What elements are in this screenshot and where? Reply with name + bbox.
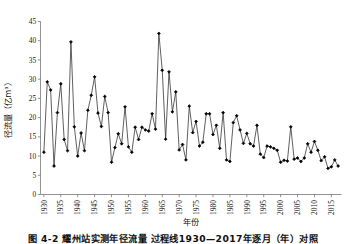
x-tick-label: 1935 (56, 200, 65, 215)
data-point-marker (134, 126, 137, 129)
data-point-marker (53, 165, 56, 168)
data-point-marker (215, 124, 218, 127)
data-point-marker (117, 132, 120, 135)
data-point-marker (188, 105, 191, 108)
data-point-marker (222, 111, 225, 114)
runoff-polyline (44, 33, 338, 168)
data-point-marker (69, 40, 72, 43)
data-point-marker (283, 159, 286, 162)
y-axis-title: 径流量（亿m³） (3, 78, 13, 137)
data-point-marker (100, 125, 103, 128)
data-point-marker (161, 69, 164, 72)
data-point-marker (66, 149, 69, 152)
x-tick-label: 1955 (124, 200, 133, 215)
x-tick-label: 1975 (192, 200, 201, 215)
data-point-marker (333, 158, 336, 161)
data-point-marker (279, 161, 282, 164)
data-point-marker (171, 110, 174, 113)
data-point-marker (239, 128, 242, 131)
data-point-marker (49, 88, 52, 91)
x-tick-label: 2010 (310, 200, 319, 215)
runoff-series (42, 32, 339, 170)
data-point-marker (151, 112, 154, 115)
data-point-marker (174, 90, 177, 93)
y-tick-label: 45 (29, 17, 37, 26)
y-tick-label: 35 (29, 56, 37, 65)
data-point-marker (289, 125, 292, 128)
data-point-marker (313, 140, 316, 143)
y-tick-label: 40 (29, 36, 37, 45)
data-point-marker (235, 114, 238, 117)
data-point-marker (107, 111, 110, 114)
data-point-marker (276, 149, 279, 152)
y-tick-label: 0 (32, 190, 36, 199)
x-tick-label: 1980 (209, 200, 218, 215)
data-point-marker (124, 105, 127, 108)
data-point-marker (245, 132, 248, 135)
y-tick-label: 30 (29, 75, 37, 84)
data-point-marker (76, 155, 79, 158)
data-point-marker (73, 125, 76, 128)
data-point-marker (147, 130, 150, 133)
data-point-marker (212, 133, 215, 136)
data-point-marker (293, 158, 296, 161)
data-point-marker (46, 80, 49, 83)
x-tick-label: 1930 (40, 200, 49, 215)
x-tick-label: 1960 (141, 200, 150, 215)
data-point-marker (195, 120, 198, 123)
data-point-marker (306, 142, 309, 145)
data-point-marker (218, 147, 221, 150)
runoff-time-series-figure: 0510152025303540451930193519401945195019… (0, 0, 346, 244)
data-point-marker (269, 145, 272, 148)
data-point-marker (120, 142, 123, 145)
data-point-marker (242, 142, 245, 145)
figure-caption: 图 4-2 耀州站实测年径流量 过程线1930—2017年逐月（年）对照 (0, 231, 346, 244)
data-point-marker (191, 131, 194, 134)
data-point-marker (56, 111, 59, 114)
data-point-marker (205, 112, 208, 115)
x-tick-label: 1995 (259, 200, 268, 215)
data-point-marker (255, 124, 258, 127)
data-point-marker (80, 132, 83, 135)
data-point-marker (110, 161, 113, 164)
data-point-marker (164, 138, 167, 141)
data-point-marker (232, 121, 235, 124)
data-point-marker (310, 151, 313, 154)
x-axis-title: 年份 (183, 217, 199, 227)
data-point-marker (63, 138, 66, 141)
data-point-marker (228, 160, 231, 163)
x-tick-label: 2015 (327, 200, 336, 215)
data-point-marker (157, 32, 160, 35)
data-point-marker (327, 167, 330, 170)
data-point-marker (330, 165, 333, 168)
data-point-marker (316, 149, 319, 152)
x-tick-label: 1970 (175, 200, 184, 215)
data-point-marker (90, 94, 93, 97)
data-point-marker (208, 112, 211, 115)
y-tick-label: 25 (29, 94, 37, 103)
y-tick-label: 10 (29, 152, 37, 161)
x-tick-label: 1965 (158, 200, 167, 215)
data-point-marker (168, 70, 171, 73)
data-point-marker (225, 158, 228, 161)
y-tick-label: 15 (29, 132, 37, 141)
data-point-marker (113, 146, 116, 149)
data-point-marker (86, 109, 89, 112)
data-point-marker (103, 95, 106, 98)
x-tick-label: 1990 (243, 200, 252, 215)
data-point-marker (93, 75, 96, 78)
x-tick-label: 1950 (107, 200, 116, 215)
data-point-marker (266, 145, 269, 148)
data-point-marker (59, 82, 62, 85)
x-tick-label: 2005 (293, 200, 302, 215)
data-point-marker (184, 158, 187, 161)
x-tick-label: 1945 (90, 200, 99, 215)
data-point-marker (286, 160, 289, 163)
x-tick-label: 2000 (276, 200, 285, 215)
x-tick-label: 1940 (73, 200, 82, 215)
data-point-marker (154, 128, 157, 131)
x-tick-label: 1985 (226, 200, 235, 215)
data-point-marker (337, 165, 340, 168)
runoff-line-chart: 0510152025303540451930193519401945195019… (0, 0, 346, 232)
data-point-marker (42, 151, 45, 154)
